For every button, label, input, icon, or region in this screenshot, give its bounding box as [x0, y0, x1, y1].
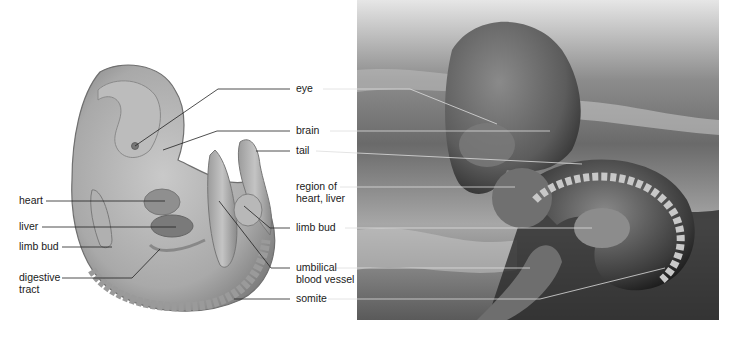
label-region-heart-liver: region of heart, liver: [296, 181, 345, 204]
sem-photograph: [357, 0, 719, 320]
label-digestive-tract: digestive tract: [19, 272, 60, 295]
label-limb-bud: limb bud: [296, 222, 336, 234]
label-liver: liver: [19, 221, 38, 233]
label-eye: eye: [296, 83, 313, 95]
label-brain: brain: [296, 125, 319, 137]
label-tail: tail: [296, 145, 309, 157]
label-somite: somite: [296, 293, 327, 305]
label-heart: heart: [19, 195, 43, 207]
eye-structure: [132, 143, 139, 150]
embryo-figure: eye brain tail region of heart, liver li…: [0, 0, 730, 342]
label-limb-bud-left: limb bud: [19, 241, 59, 253]
label-umbilical-blood-vessel: umbilical blood vessel: [296, 262, 354, 285]
